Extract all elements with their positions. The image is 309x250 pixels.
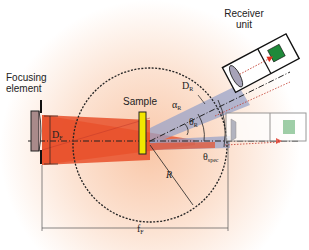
- receiver-label-line1: Receiver: [214, 8, 274, 19]
- ff-symbol: fF: [137, 224, 144, 237]
- sample: [139, 112, 146, 154]
- df-symbol: DF: [52, 130, 63, 143]
- focusing-element-label: Focusing element: [6, 72, 58, 94]
- focusing-label-line1: Focusing: [6, 72, 58, 83]
- sample-label: Sample: [118, 96, 162, 107]
- theta-r-symbol: θR: [189, 117, 198, 130]
- theta-spec-symbol: θspec: [203, 152, 218, 165]
- specular-receiver-unit: [226, 113, 306, 144]
- alpha-r-symbol: αR: [172, 100, 181, 113]
- measurement-setup-diagram: [0, 0, 309, 250]
- r-symbol: R: [166, 170, 172, 180]
- receiver-label-line2: unit: [214, 19, 274, 30]
- focusing-label-line2: element: [6, 83, 58, 94]
- receiver-unit-label: Receiver unit: [214, 8, 274, 30]
- dr-symbol: DR: [182, 81, 193, 94]
